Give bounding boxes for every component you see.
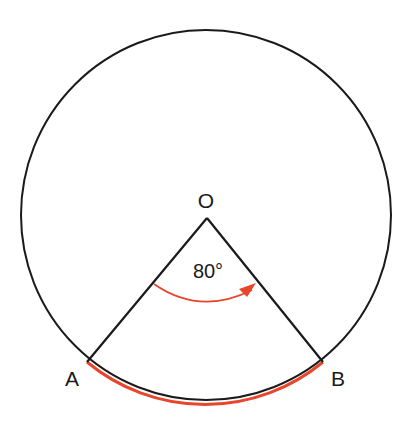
radius-oa	[87, 218, 207, 362]
circle-diagram: O A B 80°	[0, 0, 409, 422]
label-o: O	[198, 189, 214, 212]
circle-outline	[21, 30, 391, 400]
label-b: B	[331, 367, 345, 390]
radius-ob	[207, 218, 323, 362]
angle-label: 80°	[193, 260, 223, 282]
label-a: A	[65, 367, 79, 390]
angle-arc-arrow	[154, 284, 252, 302]
arc-ab	[87, 362, 323, 405]
